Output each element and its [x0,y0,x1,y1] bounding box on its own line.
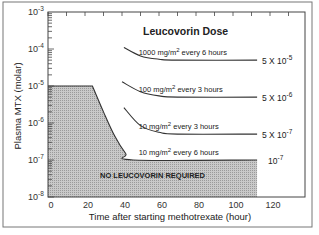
threshold-label: 5 X 10-6 [262,91,293,103]
threshold-label: 5 X 10-5 [262,54,293,66]
y-tick-label: 10-3 [28,5,44,17]
x-tick-label: 0 [48,200,53,210]
y-axis-title: Plasma MTX (molar) [12,62,23,149]
dose-label: 10 mg/m2 every 3 hours [139,121,219,131]
x-tick-label: 80 [194,200,204,210]
x-tick-label: 100 [228,200,243,210]
x-tick-label: 20 [83,200,93,210]
y-tick-label: 10-4 [28,42,44,54]
y-tick-label: 10-5 [28,79,44,91]
x-tick-label: 40 [120,200,130,210]
chart: 10-310-410-510-610-710-8 020406080100120… [0,0,319,235]
y-tick-label: 10-8 [28,190,44,202]
x-tick-label: 120 [265,200,280,210]
no-leucovorin-region [48,86,257,197]
dose-label: 1000 mg/m2 every 6 hours [139,47,228,57]
dose-labels: 1000 mg/m2 every 6 hours5 X 10-5100 mg/m… [139,47,293,166]
x-axis-title: Time after starting methotrexate (hour) [89,211,251,222]
y-axis-tick-labels: 10-310-410-510-610-710-8 [28,5,44,202]
dose-label: 100 mg/m2 every 3 hours [139,84,223,94]
x-axis-tick-labels: 020406080100120 [48,200,280,210]
y-tick-label: 10-7 [28,153,44,165]
threshold-label: 10-7 [268,154,284,166]
y-tick-label: 10-6 [28,116,44,128]
x-tick-label: 60 [157,200,167,210]
dose-label: 10 mg/m2 every 6 hours [139,147,219,157]
threshold-label: 5 X 10-7 [262,128,293,140]
chart-title: Leucovorin Dose [143,25,228,37]
no-leucovorin-label: NO LEUCOVORIN REQUIRED [100,171,206,180]
